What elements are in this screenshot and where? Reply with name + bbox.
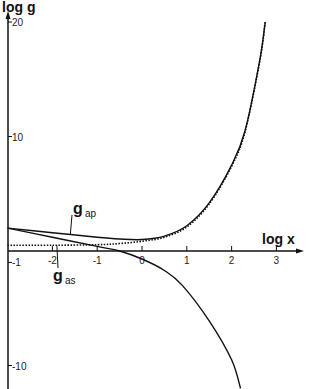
g-as-leader <box>57 245 58 268</box>
g-ap-leader <box>70 215 72 234</box>
x-axis-title: log x <box>262 231 295 247</box>
y-tick-label: -10 <box>12 361 27 372</box>
y-tick-label: 20 <box>12 17 24 28</box>
x-tick-label: 1 <box>184 255 190 266</box>
series-dotted <box>8 22 266 245</box>
annotations: gapgas <box>53 200 97 286</box>
y-axis-title: log g <box>2 0 35 15</box>
chart: -2-101232010-1-10 log g log x gapgas <box>0 0 309 389</box>
g-ap-subscript: ap <box>85 208 97 219</box>
labels: log g log x <box>2 0 295 247</box>
ticks: -2-101232010-1-10 <box>8 17 280 372</box>
x-tick-label: -2 <box>48 255 57 266</box>
x-tick-label: -1 <box>93 255 102 266</box>
g-ap-label: g <box>73 200 83 217</box>
series-g-ap <box>8 22 266 240</box>
curves <box>8 22 266 388</box>
x-tick-label: 3 <box>274 255 280 266</box>
y-tick-label: -1 <box>12 257 21 268</box>
g-as-subscript: as <box>65 275 76 286</box>
x-axis-arrow <box>296 249 304 254</box>
g-as-label: g <box>53 267 63 284</box>
series-g-as <box>8 228 241 388</box>
y-tick-label: 10 <box>12 132 24 143</box>
x-tick-label: 2 <box>229 255 235 266</box>
